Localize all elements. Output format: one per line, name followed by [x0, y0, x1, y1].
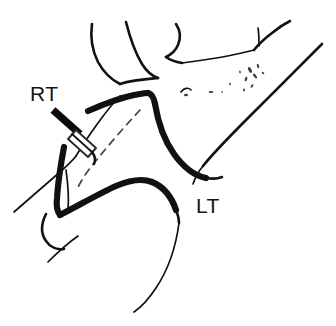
- figure-background: [0, 0, 336, 326]
- figure-container: RT LT: [0, 0, 336, 326]
- anatomical-line-drawing: RT LT: [0, 0, 336, 326]
- label-lt: LT: [196, 194, 220, 217]
- label-rt: RT: [30, 82, 59, 105]
- branch-right-tick: [258, 28, 259, 46]
